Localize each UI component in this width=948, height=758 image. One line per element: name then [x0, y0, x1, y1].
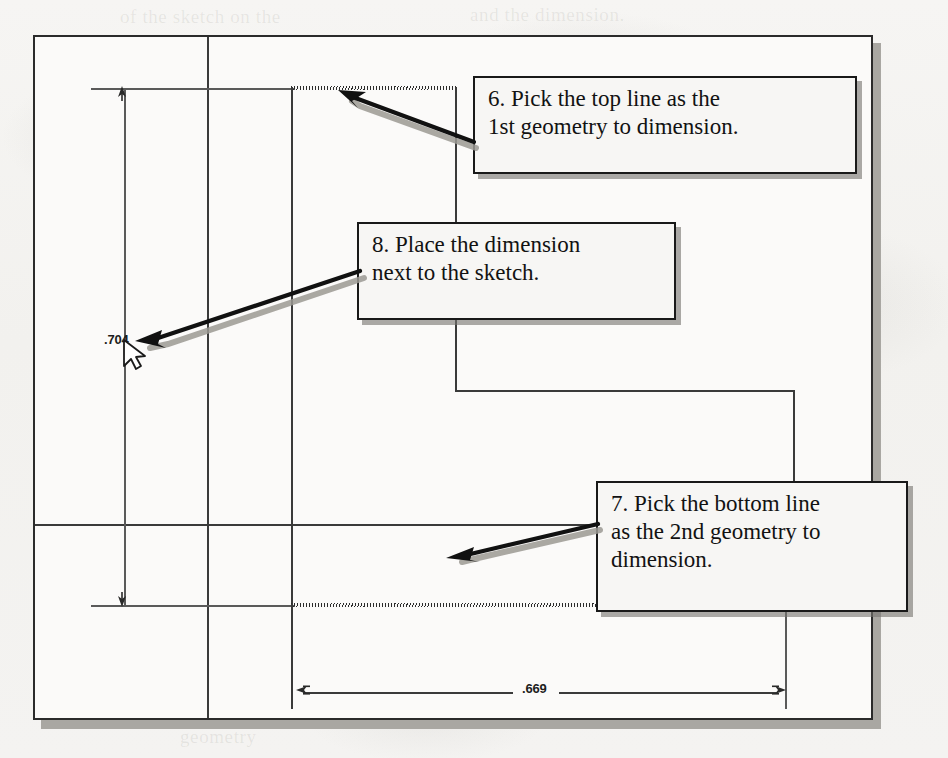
callout-step-6-line-1: 6. Pick the top line as the [488, 85, 842, 113]
bleed-through-text: geometry [180, 726, 257, 748]
geometry-line-extension-top [91, 88, 295, 90]
callout-step-8-line-2: next to the sketch. [372, 259, 661, 287]
geometry-line-vertical-left [207, 37, 209, 720]
dimension-line-horizontal-left-segment [303, 692, 513, 694]
sketch-line-step-horizontal [455, 390, 795, 392]
dimension-line-horizontal-right-segment [559, 692, 777, 694]
geometry-line-extension-bottom [91, 605, 295, 607]
callout-step-7[interactable]: 7. Pick the bottom line as the 2nd geome… [596, 481, 908, 612]
bleed-through-text: of the sketch on the [120, 6, 281, 28]
callout-step-6-line-2: 1st geometry to dimension. [488, 113, 842, 141]
callout-step-8[interactable]: 8. Place the dimension next to the sketc… [357, 222, 676, 320]
bleed-through-text: and the dimension. [470, 4, 625, 26]
callout-step-7-line-1: 7. Pick the bottom line [611, 490, 893, 518]
dimension-value-horizontal: .669 [522, 681, 547, 696]
geometry-line-vertical-dim-extension-left [291, 604, 293, 709]
callout-step-6[interactable]: 6. Pick the top line as the 1st geometry… [473, 76, 857, 174]
sketch-top-line-highlighted [291, 86, 457, 90]
dimension-line-vertical [124, 90, 126, 607]
scanned-tutorial-page: of the sketch on theand the dimension.to… [0, 0, 948, 758]
callout-step-7-line-3: dimension. [611, 546, 893, 574]
callout-step-8-line-1: 8. Place the dimension [372, 231, 661, 259]
sketch-line-left-vertical [291, 87, 293, 612]
dimension-value-vertical: .704 [104, 332, 129, 347]
callout-step-7-line-2: as the 2nd geometry to [611, 518, 893, 546]
